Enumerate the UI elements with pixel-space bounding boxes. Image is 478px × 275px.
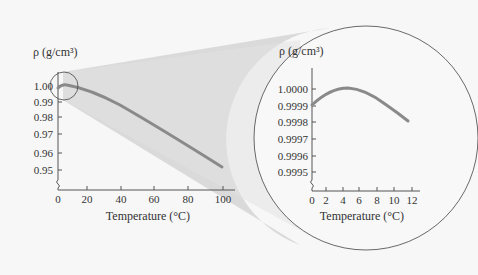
right-y-axis-title: ρ (g/cm³) — [279, 44, 324, 58]
right-x-tick: 0 — [309, 194, 315, 206]
right-x-axis-title: Temperature (°C) — [320, 209, 404, 223]
left-x-tick: 80 — [183, 193, 195, 205]
left-y-axis-title: ρ (g/cm³) — [33, 45, 78, 59]
left-x-tick: 40 — [116, 193, 128, 205]
density-figure: ρ (g/cm³) 1.00 0.99 0.98 0.97 0.96 0.95 — [0, 0, 478, 275]
right-y-tick: 0.9999 — [278, 100, 309, 112]
left-y-tick: 0.96 — [34, 147, 54, 159]
left-y-tick: 0.97 — [34, 128, 54, 140]
left-x-tick: 60 — [149, 193, 161, 205]
right-y-tick: 0.9995 — [278, 166, 309, 178]
left-x-tick: 0 — [55, 193, 61, 205]
right-y-tick: 0.9996 — [278, 150, 309, 162]
right-y-tick: 0.9997 — [278, 133, 309, 145]
right-x-tick: 2 — [323, 194, 329, 206]
left-x-tick: 20 — [82, 193, 94, 205]
left-x-axis-title: Temperature (°C) — [106, 209, 190, 223]
left-y-tick: 0.95 — [34, 164, 54, 176]
left-x-tick: 100 — [215, 193, 232, 205]
right-x-tick: 12 — [407, 194, 418, 206]
right-x-tick: 10 — [389, 194, 401, 206]
right-y-tick: 1.0000 — [278, 83, 309, 95]
right-y-tick: 0.9998 — [278, 116, 309, 128]
left-y-tick: 0.99 — [34, 96, 54, 108]
right-x-tick: 8 — [374, 194, 380, 206]
right-x-tick: 6 — [356, 194, 362, 206]
left-y-tick: 0.98 — [34, 111, 54, 123]
right-x-tick: 4 — [340, 194, 346, 206]
